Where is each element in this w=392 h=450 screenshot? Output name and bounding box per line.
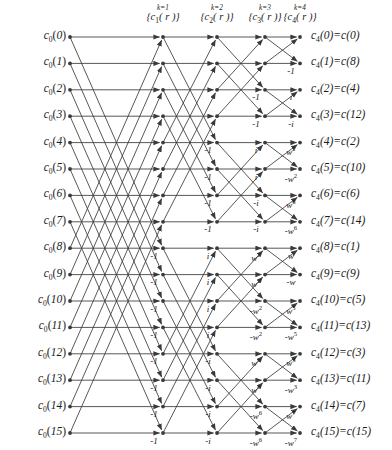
flow-edge-arrow bbox=[70, 143, 162, 351]
flow-edge-arrow bbox=[70, 40, 162, 248]
input-label-6: c0(6) bbox=[0, 189, 66, 202]
twiddle-label-s1-r13: -1 bbox=[150, 384, 158, 393]
output-label-10: c4(10)=c(5) bbox=[311, 294, 365, 307]
twiddle-label-s1-r14: -1 bbox=[150, 410, 158, 419]
stage-node bbox=[263, 194, 267, 198]
stage-node bbox=[215, 431, 219, 435]
stage-node bbox=[161, 352, 165, 356]
twiddle-label-s2-r5: -1 bbox=[204, 173, 212, 182]
output-label-6: c4(6)=c(6) bbox=[311, 189, 360, 202]
stage-node bbox=[298, 273, 302, 277]
twiddle-label-s4-r4: w2 bbox=[286, 146, 295, 157]
fft-flow-graph-figure: k=1{c1( r )}k=2{c2( r )}k=3{c3( r )}k=4{… bbox=[0, 0, 392, 450]
twiddle-label-s4-r8: w bbox=[288, 252, 294, 261]
stage-node bbox=[263, 167, 267, 171]
stage-node bbox=[215, 114, 219, 118]
stage-node bbox=[161, 299, 165, 303]
input-node bbox=[68, 378, 72, 382]
twiddle-label-s3-r15: -w6 bbox=[250, 437, 262, 448]
twiddle-label-s4-r13: -w3 bbox=[285, 384, 297, 395]
stage-node bbox=[298, 194, 302, 198]
flow-edge-arrow bbox=[217, 40, 263, 90]
twiddle-label-s4-r10: w5 bbox=[286, 305, 295, 316]
stage-node bbox=[298, 326, 302, 330]
stage-node bbox=[215, 194, 219, 198]
input-label-13: c0(13) bbox=[0, 374, 66, 387]
output-label-1: c4(1)=c(8) bbox=[311, 57, 360, 70]
flow-edge-arrow bbox=[70, 119, 162, 327]
stage-header-1: k=1{c1( r )} bbox=[146, 5, 179, 24]
input-node bbox=[68, 114, 72, 118]
input-label-10: c0(10) bbox=[0, 294, 66, 307]
twiddle-label-s4-r12: w3 bbox=[286, 357, 295, 368]
input-node bbox=[68, 246, 72, 250]
edge-layer bbox=[70, 37, 297, 433]
output-label-4: c4(4)=c(2) bbox=[311, 136, 360, 149]
stage-node bbox=[161, 246, 165, 250]
stage-node bbox=[298, 352, 302, 356]
stage-set-label: {c1( r )} bbox=[146, 11, 179, 22]
stage-node bbox=[161, 88, 165, 92]
twiddle-label-s1-r12: -1 bbox=[150, 357, 158, 366]
twiddle-label-s2-r10: i bbox=[207, 305, 210, 314]
stage-node bbox=[161, 273, 165, 277]
stage-node bbox=[298, 299, 302, 303]
input-label-2: c0(2) bbox=[0, 83, 66, 96]
stage-node bbox=[215, 220, 219, 224]
stage-node bbox=[263, 141, 267, 145]
stage-header-2: k=2{c2( r )} bbox=[200, 5, 233, 24]
flow-edge-arrow bbox=[70, 169, 162, 377]
twiddle-label-s3-r2: -1 bbox=[252, 93, 260, 102]
stage-node bbox=[298, 431, 302, 435]
flow-edge-arrow bbox=[70, 116, 162, 324]
stage-node bbox=[161, 167, 165, 171]
stage-node bbox=[161, 378, 165, 382]
output-label-14: c4(14)=c(7) bbox=[311, 400, 365, 413]
output-label-7: c4(7)=c(14) bbox=[311, 215, 365, 228]
twiddle-label-s3-r8: w2 bbox=[251, 252, 260, 263]
input-label-15: c0(15) bbox=[0, 426, 66, 439]
stage-node bbox=[263, 220, 267, 224]
twiddle-label-s2-r4: -1 bbox=[204, 146, 212, 155]
flow-edge-arrow bbox=[70, 195, 162, 403]
flow-edge-arrow bbox=[70, 90, 162, 298]
input-node bbox=[68, 326, 72, 330]
stage-node bbox=[298, 141, 302, 145]
input-label-8: c0(8) bbox=[0, 242, 66, 255]
flow-edge-arrow bbox=[70, 172, 162, 380]
input-label-7: c0(7) bbox=[0, 215, 66, 228]
twiddle-label-s4-r7: -w6 bbox=[285, 225, 297, 236]
stage-node bbox=[298, 246, 302, 250]
stage-node bbox=[263, 62, 267, 66]
twiddle-label-s2-r11: i bbox=[207, 331, 210, 340]
twiddle-label-s4-r5: -w2 bbox=[285, 173, 297, 184]
twiddle-label-s2-r15: -i bbox=[205, 437, 211, 446]
flow-edge-arrow bbox=[70, 199, 162, 407]
stage-node bbox=[215, 273, 219, 277]
stage-node bbox=[161, 35, 165, 39]
stage-node bbox=[298, 405, 302, 409]
flow-edge-arrow bbox=[70, 222, 162, 430]
twiddle-label-s3-r10: -w2 bbox=[250, 305, 262, 316]
twiddle-label-s4-r11: -w5 bbox=[285, 331, 297, 342]
stage-node bbox=[161, 405, 165, 409]
input-node bbox=[68, 194, 72, 198]
output-label-8: c4(8)=c(1) bbox=[311, 242, 360, 255]
stage-node bbox=[263, 299, 267, 303]
twiddle-label-s3-r11: -w2 bbox=[250, 331, 262, 342]
input-label-12: c0(12) bbox=[0, 347, 66, 360]
stage-node bbox=[298, 62, 302, 66]
flow-edge-arrow bbox=[70, 93, 162, 301]
input-label-9: c0(9) bbox=[0, 268, 66, 281]
input-label-1: c0(1) bbox=[0, 57, 66, 70]
output-label-15: c4(15)=c(15) bbox=[311, 426, 371, 439]
stage-node bbox=[161, 220, 165, 224]
twiddle-label-s4-r6: w6 bbox=[286, 199, 295, 210]
twiddle-label-s1-r9: -1 bbox=[150, 278, 158, 287]
stage-node bbox=[215, 326, 219, 330]
input-node bbox=[68, 220, 72, 224]
twiddle-label-s2-r7: -1 bbox=[204, 225, 212, 234]
stage-node bbox=[298, 35, 302, 39]
output-label-12: c4(12)=c(3) bbox=[311, 347, 365, 360]
twiddle-label-s3-r3: -1 bbox=[252, 120, 260, 129]
